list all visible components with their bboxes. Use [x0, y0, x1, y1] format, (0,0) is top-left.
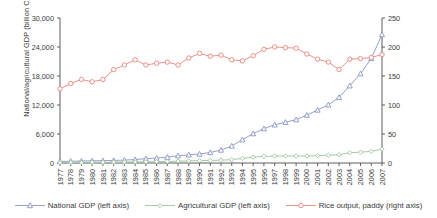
x-axis-tick-label: 2007 — [378, 169, 387, 185]
data-point-marker — [272, 45, 276, 49]
data-point-marker — [326, 153, 330, 157]
data-point-marker — [326, 60, 330, 64]
x-axis-tick-label: 1991 — [206, 169, 215, 185]
data-point-marker — [315, 153, 319, 157]
x-axis-tick-label: 1979 — [77, 169, 86, 185]
data-point-marker — [230, 157, 234, 161]
data-point-marker — [79, 77, 83, 81]
data-point-marker — [315, 107, 320, 112]
data-point-marker — [272, 154, 276, 158]
y-axis-right-tick-label: 200 — [388, 43, 400, 52]
x-axis-tick-label: 1988 — [174, 169, 183, 185]
chart-figure: National/agricultural GDP (billion CN¥) … — [0, 0, 437, 218]
data-point-marker — [272, 122, 277, 127]
data-point-marker — [219, 53, 223, 57]
data-point-marker — [219, 158, 223, 162]
legend-label: National GDP (left axis) — [48, 201, 129, 210]
data-point-marker — [251, 54, 255, 58]
data-point-marker — [176, 153, 181, 158]
legend-item-1[interactable]: National GDP (left axis) — [15, 201, 129, 210]
data-point-marker — [230, 58, 234, 62]
x-axis-tick-label: 1987 — [163, 169, 172, 185]
data-point-marker — [283, 120, 288, 125]
data-point-marker — [283, 154, 287, 158]
x-axis-tick-label: 1983 — [120, 169, 129, 185]
data-point-marker — [358, 150, 362, 154]
data-point-marker — [176, 63, 180, 67]
data-point-marker — [251, 131, 256, 136]
x-axis-tick-label: 1984 — [131, 169, 140, 185]
data-point-marker — [326, 102, 331, 107]
data-point-marker — [90, 80, 94, 84]
y-axis-left-tick-label: 6,000 — [36, 130, 54, 139]
y-axis-left-tick-label: 0 — [50, 159, 54, 168]
series-rice — [58, 45, 384, 91]
data-point-marker — [380, 147, 384, 151]
chart-legend: National GDP (left axis)Agricultural GDP… — [0, 195, 437, 215]
legend-label: Rice output, paddy (right axis) — [319, 201, 423, 210]
x-axis-tick-label: 1985 — [141, 169, 150, 185]
y-axis-right-tick-label: 150 — [388, 72, 400, 81]
data-point-marker — [208, 150, 213, 155]
data-point-marker — [369, 55, 373, 59]
data-point-marker — [219, 147, 224, 152]
data-point-marker — [315, 57, 319, 61]
x-axis-tick-label: 1978 — [66, 169, 75, 185]
data-point-marker — [337, 67, 341, 71]
data-point-marker — [304, 112, 309, 117]
legend-item-3[interactable]: Rice output, paddy (right axis) — [286, 201, 423, 210]
x-axis-tick-label: 1990 — [195, 169, 204, 185]
data-point-marker — [240, 137, 245, 142]
data-point-marker — [197, 151, 202, 156]
data-point-marker — [101, 77, 105, 81]
data-point-marker — [197, 158, 201, 162]
x-axis-tick-label: 2003 — [335, 169, 344, 185]
legend-marker-icon — [286, 201, 316, 210]
y-axis-right-tick-label: 250 — [388, 14, 400, 23]
x-axis-tick-label: 1999 — [292, 169, 301, 185]
data-point-marker — [187, 56, 191, 60]
x-axis-tick-label: 2006 — [367, 169, 376, 185]
data-point-marker — [305, 52, 309, 56]
data-point-marker — [294, 46, 298, 50]
data-point-marker — [208, 158, 212, 162]
x-axis-tick-label: 1977 — [56, 169, 65, 185]
data-point-marker — [144, 63, 148, 67]
data-point-marker — [305, 154, 309, 158]
legend-item-2[interactable]: Agricultural GDP (left axis) — [145, 201, 270, 210]
y-axis-left-tick-label: 12,000 — [32, 101, 54, 110]
data-point-marker — [197, 51, 201, 55]
x-axis-tick-label: 1989 — [184, 169, 193, 185]
data-point-marker — [294, 117, 299, 122]
x-axis-tick-label: 2004 — [345, 169, 354, 185]
y-axis-right-tick-label: 100 — [388, 101, 400, 110]
data-point-marker — [283, 45, 287, 49]
data-point-marker — [262, 154, 266, 158]
data-point-marker — [369, 149, 373, 153]
x-axis-tick-label: 2002 — [324, 169, 333, 185]
data-point-marker — [154, 61, 158, 65]
data-point-marker — [122, 63, 126, 67]
legend-marker-icon — [145, 201, 175, 210]
x-axis-tick-label: 1986 — [152, 169, 161, 185]
data-point-marker — [240, 156, 244, 160]
data-point-marker — [133, 58, 137, 62]
y-axis-left-title: National/agricultural GDP (billion CN¥) — [22, 0, 31, 123]
data-point-marker — [229, 143, 234, 148]
x-axis-tick-label: 1993 — [227, 169, 236, 185]
y-axis-left-tick-label: 30,000 — [32, 14, 54, 23]
series-national — [58, 32, 385, 164]
x-axis-tick-label: 2000 — [302, 169, 311, 185]
y-axis-right-tick-label: 50 — [388, 130, 396, 139]
data-point-marker — [261, 126, 266, 131]
data-point-marker — [187, 159, 191, 163]
data-point-marker — [27, 202, 32, 207]
y-axis-right-tick-label: 0 — [388, 159, 392, 168]
x-axis-tick-label: 2001 — [313, 169, 322, 185]
data-point-marker — [240, 59, 244, 63]
x-axis-tick-label: 2005 — [356, 169, 365, 185]
x-axis-tick-label: 1982 — [109, 169, 118, 185]
y-axis-left-tick-label: 24,000 — [32, 43, 54, 52]
data-point-marker — [380, 52, 384, 56]
data-point-marker — [299, 203, 303, 207]
